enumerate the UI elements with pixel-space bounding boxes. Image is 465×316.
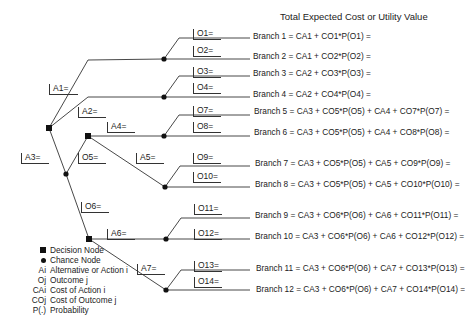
branch-8-formula: Branch 8 = CA3 + CO5*P(O5) + CA5 + CO10*… <box>255 179 460 189</box>
decision-node-icon <box>40 247 46 253</box>
chance-node-1 <box>161 56 166 61</box>
label-a5: A5= <box>136 153 164 164</box>
branch-6-formula: Branch 6 = CA3 + CO5*P(O5) + CA4 + CO8*P… <box>254 127 449 137</box>
label-a3: A3= <box>21 153 49 164</box>
label-a2: A2= <box>78 107 106 118</box>
label-o6: O6= <box>81 202 109 213</box>
label-o2: O2= <box>193 46 221 57</box>
chance-node-o5o6 <box>63 171 68 176</box>
branch-2-formula: Branch 2 = CA1 + CO2*P(O2) = <box>253 51 371 61</box>
branch-4-formula: Branch 4 = CA2 + CO4*P(O4) = <box>253 89 371 99</box>
label-o13: O13= <box>194 261 222 272</box>
label-o12: O12= <box>194 229 222 240</box>
branch-5-formula: Branch 5 = CA3 + CO5*P(O5) + CA4 + CO7*P… <box>254 106 449 116</box>
branch-11-formula: Branch 11 = CA3 + CO6*P(O6) + CA7 + CO13… <box>256 263 465 273</box>
legend: Decision Node Chance Node Ai Alternative… <box>20 245 128 315</box>
label-o9: O9= <box>193 153 221 164</box>
label-a1: A1= <box>49 84 78 95</box>
decision-node-root <box>46 125 52 131</box>
label-o11: O11= <box>194 204 222 215</box>
branch-12-formula: Branch 12 = CA3 + CO6*P(O6) + CA7 + CO14… <box>256 284 465 294</box>
branch-9-formula: Branch 9 = CA3 + CO6*P(O6) + CA6 + CO11*… <box>255 210 458 220</box>
decision-node-a4 <box>85 133 91 139</box>
branch-7-formula: Branch 7 = CA3 + CO5*P(O5) + CA5 + CO9*P… <box>255 158 450 168</box>
diagram-title: Total Expected Cost or Utility Value <box>280 11 428 22</box>
label-o5: O5= <box>78 153 106 164</box>
label-o10: O10= <box>193 172 221 183</box>
legend-cost-action: CAi Cost of Action i <box>20 285 128 295</box>
label-a7: A7= <box>137 264 165 275</box>
label-o3: O3= <box>193 67 221 78</box>
label-a4: A4= <box>107 122 135 133</box>
chance-node-4 <box>162 184 167 189</box>
chance-node-5 <box>163 236 168 241</box>
label-o14: O14= <box>194 277 222 288</box>
label-o4: O4= <box>193 83 221 94</box>
chance-node-icon <box>41 258 46 263</box>
branch-1-formula: Branch 1 = CA1 + CO1*P(O1) = <box>253 31 371 41</box>
legend-chance-node: Chance Node <box>20 255 128 265</box>
legend-outcome: Oj Outcome j <box>20 275 128 285</box>
label-o1: O1= <box>193 29 221 40</box>
label-o8: O8= <box>193 122 221 133</box>
chance-node-2 <box>161 94 166 99</box>
branch-10-formula: Branch 10 = CA3 + CO6*P(O6) + CA6 + CO12… <box>255 231 464 241</box>
label-o7: O7= <box>193 106 221 117</box>
label-a6: A6= <box>107 229 135 240</box>
legend-decision-node: Decision Node <box>20 245 128 255</box>
legend-probability: P(.) Probability <box>20 305 128 315</box>
legend-cost-outcome: COj Cost of Outcome j <box>20 295 128 305</box>
branch-3-formula: Branch 3 = CA2 + CO3*P(O3) = <box>253 68 371 78</box>
chance-node-6 <box>163 287 168 292</box>
chance-node-3 <box>161 133 166 138</box>
legend-action: Ai Alternative or Action i <box>20 265 128 275</box>
decision-node-a6 <box>86 236 92 242</box>
